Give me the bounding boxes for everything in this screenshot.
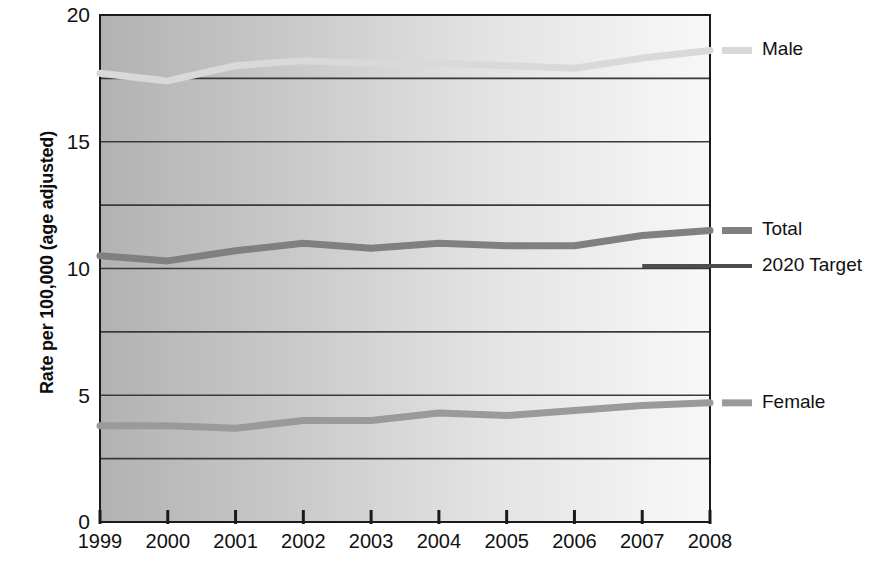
x-tick-label: 2008: [670, 530, 750, 553]
legend-label-2020-target: 2020 Target: [762, 254, 862, 276]
legend-label-male: Male: [762, 38, 803, 60]
legend-label-total: Total: [762, 218, 802, 240]
plot-area: [0, 0, 888, 569]
legend-label-female: Female: [762, 391, 825, 413]
chart-container: Rate per 100,000 (age adjusted) 20 15 10…: [0, 0, 888, 569]
